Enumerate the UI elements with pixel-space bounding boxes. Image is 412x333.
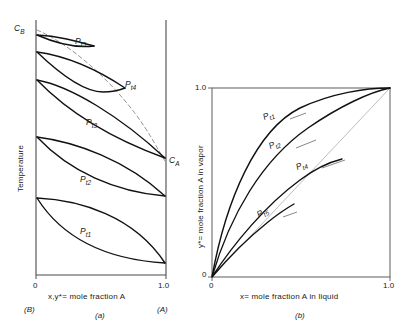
panel-a-label-pt4-sub: t4 bbox=[131, 84, 136, 91]
panel-a-y-axis-title: Temperature bbox=[16, 145, 25, 192]
panel-a-ticks bbox=[36, 275, 166, 279]
panel-b-xtick-0: 0 bbox=[209, 281, 213, 290]
panel-a-curve-pt1 bbox=[37, 198, 165, 263]
panel-b-ytick-0: 0 bbox=[202, 270, 206, 279]
panel-a-axes bbox=[36, 20, 166, 275]
figure-canvas bbox=[0, 0, 412, 333]
panel-b-ytick-1: 1.0 bbox=[195, 83, 206, 92]
panel-a-label-pt3: Pt3 bbox=[86, 117, 97, 129]
panel-a-xtick-1: 1.0 bbox=[158, 281, 169, 290]
panel-a-tag: (a) bbox=[95, 311, 105, 320]
critical-point-cb-sub: B bbox=[20, 28, 24, 35]
panel-a-label-pt4: Pt4 bbox=[125, 79, 136, 91]
panel-a-label-pt5-sub: t5 bbox=[81, 41, 86, 48]
panel-a-label-pt2-sub: t2 bbox=[86, 179, 91, 186]
panel-b-y-axis-title: y*= mole fraction A in vapor bbox=[196, 145, 205, 248]
panel-a-x-axis-title: x,y*= mole fraction A bbox=[48, 292, 125, 301]
panel-a-label-pt3-sub: t3 bbox=[92, 122, 97, 129]
panel-b-tag: (b) bbox=[295, 311, 305, 320]
figure-container: Temperature CB CA Pt5 Pt4 Pt3 Pt2 Pt1 0 … bbox=[0, 0, 412, 333]
panel-a-corner-label-b: (B) bbox=[24, 305, 35, 314]
panel-a-corner-label-a: (A) bbox=[157, 305, 168, 314]
panel-a-curve-pt2 bbox=[37, 137, 165, 196]
panel-a-xtick-0: 0 bbox=[33, 281, 37, 290]
critical-point-ca-label: CA bbox=[169, 155, 179, 167]
critical-point-ca-sub: A bbox=[175, 160, 179, 167]
critical-point-cb-label: CB bbox=[14, 23, 24, 35]
panel-a-label-pt2: Pt2 bbox=[80, 174, 91, 186]
panel-b-x-axis-title: x= mole fraction A in liquid bbox=[240, 292, 338, 301]
panel-b-xtick-1: 1.0 bbox=[383, 281, 394, 290]
panel-a-label-pt5: Pt5 bbox=[75, 36, 86, 48]
panel-a-label-pt1-sub: t1 bbox=[86, 231, 91, 238]
panel-b-curve-pt4 bbox=[212, 159, 342, 277]
panel-a-label-pt1: Pt1 bbox=[80, 226, 91, 238]
panel-b-leader-lines bbox=[283, 113, 345, 217]
